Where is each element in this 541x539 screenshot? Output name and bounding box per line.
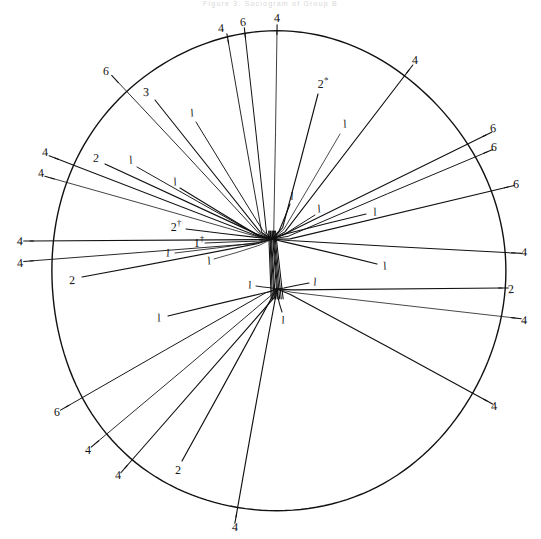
spoke-line [277, 288, 502, 290]
rim-tick [244, 28, 245, 38]
spoke-label-1-34: l [281, 314, 284, 325]
spoke-label-4-37: 4 [85, 444, 91, 456]
spoke-line [236, 289, 277, 517]
spoke-label-2-20: 2† [171, 219, 182, 233]
rim-tick [49, 156, 58, 160]
spoke-line [277, 289, 515, 318]
spoke-label-1-18: l [317, 203, 321, 214]
spoke-line [105, 164, 272, 239]
spoke-label-2-26: 2 [69, 274, 76, 286]
spoke-label-1-14: l [129, 154, 133, 165]
spoke-label-3-6: 3 [143, 86, 149, 98]
spoke-label-4-23: 4 [17, 257, 24, 269]
spoke-line [51, 178, 272, 239]
spoke-line [272, 239, 515, 253]
spoke-line [30, 239, 272, 261]
spoke-label-4-2: 4 [274, 12, 280, 24]
spoke-label-6-1: 6 [240, 16, 247, 28]
rim-tick [61, 405, 70, 410]
spoke-label-4-40: 4 [232, 521, 239, 533]
spoke-line [182, 289, 277, 461]
spoke-label-2-4: 2* [317, 76, 328, 90]
spoke-label-1-28: l [383, 260, 387, 271]
spoke-label-6-5: 6 [103, 65, 110, 77]
sociogram-figure: Figure 3. Sociogram of Group B 46442*63l… [0, 0, 541, 539]
spoke-label-4-12: 4 [42, 146, 49, 158]
rim-tick [227, 34, 229, 44]
spoke-label-1-22: 1† [194, 235, 205, 249]
spoke-label-6-9: 6 [490, 122, 497, 134]
spoke-label-4-35: 4 [491, 400, 498, 412]
spoke-label-1-19: l [373, 206, 376, 217]
spoke-label-1-31: l [248, 279, 251, 290]
rim-tick [91, 441, 98, 447]
spoke-line [66, 289, 277, 407]
spoke-label-4-15: 4 [38, 167, 45, 179]
spoke-label-4-21: 4 [17, 235, 23, 247]
spoke-line [272, 31, 277, 239]
spoke-label-1-7: l [190, 107, 194, 118]
spoke-line [96, 289, 277, 443]
spoke-label-4-30: 4 [521, 314, 527, 326]
spoke-line [168, 289, 277, 316]
rim-tick [112, 75, 119, 82]
spoke-label-4-38: 4 [115, 469, 122, 481]
spoke-line [55, 158, 272, 239]
rim-tick [512, 253, 522, 254]
spoke-label-2-39: 2 [175, 464, 181, 476]
spoke-label-2-29: 2 [508, 283, 515, 295]
spoke-line [277, 289, 487, 401]
spoke-label-1-8: l [343, 118, 346, 129]
spoke-label-6-36: 6 [54, 406, 60, 418]
spoke-label-1-16: l [173, 176, 177, 187]
spoke-label-1-33: l [157, 312, 160, 323]
spoke-line [30, 239, 272, 241]
rim-tick [45, 176, 54, 179]
spoke-line [272, 187, 508, 239]
spoke-label-4-27: 4 [521, 246, 527, 258]
rim-tick [121, 465, 127, 472]
sociogram-canvas [0, 0, 541, 539]
spoke-label-1-25: l [207, 255, 211, 266]
spoke-line [272, 135, 486, 239]
spoke-label-6-11: 6 [513, 178, 519, 190]
spoke-label-4-3: 4 [412, 54, 418, 66]
spoke-label-6-10: 6 [491, 141, 497, 153]
rim-tick [24, 261, 34, 262]
spoke-line [125, 289, 277, 468]
spoke-label-4-0: 4 [218, 22, 225, 34]
rim-tick [512, 318, 522, 319]
spoke-label-2-13: 2 [93, 152, 100, 164]
